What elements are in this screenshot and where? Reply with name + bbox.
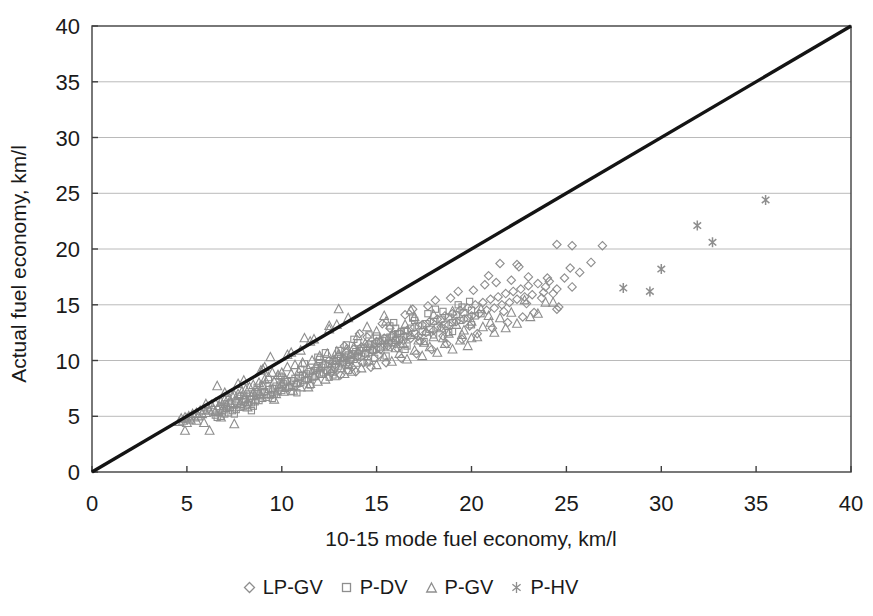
p-gv-point	[463, 341, 472, 349]
lp-gv-point	[492, 278, 500, 286]
y-tick-label: 30	[56, 126, 80, 151]
y-tick-label: 20	[56, 237, 80, 262]
x-tick-label: 0	[86, 491, 98, 516]
p-gv-point	[334, 304, 343, 312]
lp-gv-point	[469, 286, 477, 294]
x-axis-title: 10-15 mode fuel economy, km/l	[325, 527, 616, 550]
p-gv-point	[410, 346, 419, 354]
p-gv-point	[452, 320, 461, 328]
p-hv-point	[762, 195, 770, 205]
lp-gv-point	[410, 323, 418, 331]
lp-gv-point	[465, 322, 473, 330]
legend-item-p-hv: P-HV	[510, 577, 578, 597]
lp-gv-point	[481, 281, 489, 289]
lp-gv-point	[507, 276, 515, 284]
lp-gv-point	[524, 282, 532, 290]
scatter-plot: 05101520253035400510152025303540 Actual …	[0, 0, 873, 616]
lp-gv-point	[560, 274, 568, 282]
p-gv-point	[181, 426, 190, 434]
p-gv-point	[433, 348, 442, 356]
x-tick-label: 40	[839, 491, 863, 516]
p-gv-point	[298, 358, 307, 366]
lp-gv-point	[517, 285, 525, 293]
lp-gv-point	[553, 285, 561, 293]
lp-gv-point	[494, 293, 502, 301]
lp-gv-point	[566, 264, 574, 272]
lp-gv-point	[524, 273, 532, 281]
asterisk-icon	[510, 581, 523, 594]
y-tick-label: 35	[56, 70, 80, 95]
legend-label-p-dv: P-DV	[360, 577, 408, 597]
legend-label-lp-gv: LP-GV	[263, 577, 323, 597]
lp-gv-point	[460, 315, 468, 323]
p-gv-point	[213, 381, 222, 389]
lp-gv-point	[496, 259, 504, 267]
diamond-icon	[243, 581, 256, 594]
triangle-icon	[425, 581, 438, 594]
p-gv-point	[520, 296, 529, 304]
p-hv-point	[658, 264, 666, 274]
lp-gv-point	[454, 287, 462, 295]
lp-gv-point	[397, 354, 405, 362]
legend-item-p-dv: P-DV	[340, 577, 408, 597]
lp-gv-point	[431, 296, 439, 304]
y-tick-label: 40	[56, 14, 80, 39]
p-hv-point	[694, 221, 702, 231]
legend-item-lp-gv: LP-GV	[243, 577, 323, 597]
x-tick-label: 35	[744, 491, 768, 516]
legend-label-p-gv: P-GV	[445, 577, 494, 597]
y-tick-label: 25	[56, 181, 80, 206]
p-gv-point	[205, 426, 214, 434]
chart-figure: 05101520253035400510152025303540 Actual …	[0, 0, 873, 616]
lp-gv-point	[528, 291, 536, 299]
legend-label-p-hv: P-HV	[530, 577, 578, 597]
lp-gv-point	[587, 258, 595, 266]
lp-gv-point	[446, 294, 454, 302]
lp-gv-point	[553, 240, 561, 248]
legend: LP-GV P-DV P-GV P-HV	[0, 577, 847, 597]
p-gv-point	[363, 322, 372, 330]
x-tick-label: 10	[270, 491, 294, 516]
p-gv-point	[266, 352, 275, 360]
legend-item-p-gv: P-GV	[425, 577, 494, 597]
lp-gv-point	[502, 289, 510, 297]
lp-gv-point	[568, 283, 576, 291]
lp-gv-point	[534, 279, 542, 287]
y-tick-label: 10	[56, 349, 80, 374]
x-tick-label: 20	[459, 491, 483, 516]
lp-gv-point	[424, 302, 432, 310]
square-icon	[340, 581, 353, 594]
lp-gv-point	[484, 272, 492, 280]
x-tick-label: 30	[649, 491, 673, 516]
p-hv-point	[646, 286, 654, 296]
x-tick-label: 5	[181, 491, 193, 516]
y-axis-title: Actual fuel economy, km/l	[7, 145, 30, 383]
y-tick-label: 15	[56, 293, 80, 318]
lp-gv-point	[576, 268, 584, 276]
p-gv-point	[507, 308, 516, 316]
lp-gv-point	[509, 287, 517, 295]
x-tick-label: 15	[364, 491, 388, 516]
p-gv-point	[350, 342, 359, 350]
y-tick-label: 0	[68, 460, 80, 485]
p-hv-point	[709, 237, 717, 247]
x-tick-label: 25	[554, 491, 578, 516]
y-tick-label: 5	[68, 404, 80, 429]
lp-gv-point	[486, 295, 494, 303]
p-gv-point	[403, 355, 412, 363]
p-gv-point	[513, 319, 522, 327]
p-gv-point	[490, 328, 499, 336]
p-hv-point	[620, 283, 628, 293]
p-gv-point	[230, 419, 239, 427]
